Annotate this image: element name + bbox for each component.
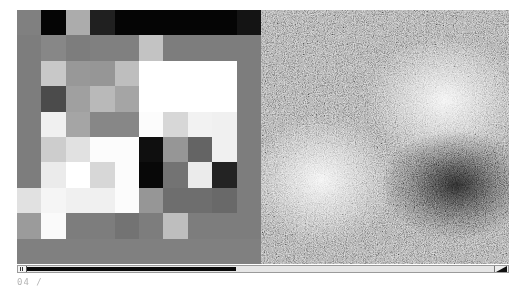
grid-cell (17, 213, 41, 238)
grid-cell (188, 188, 212, 213)
grid-cell (237, 86, 261, 111)
grid-cell (17, 35, 41, 60)
grid-cell (188, 213, 212, 238)
grid-cell (41, 35, 65, 60)
grid-cell (90, 112, 114, 137)
grid-cell (163, 188, 187, 213)
grid-cell (212, 137, 236, 162)
grid-cell (115, 213, 139, 238)
grid-cell (90, 213, 114, 238)
grid-cell (115, 239, 139, 264)
grid-cell (115, 86, 139, 111)
grid-cell (41, 188, 65, 213)
grid-cell (188, 10, 212, 35)
grid-cell (163, 137, 187, 162)
grid-cell (41, 162, 65, 187)
grid-cell (163, 162, 187, 187)
grid-cell (90, 137, 114, 162)
grid-cell (212, 10, 236, 35)
pause-button[interactable] (18, 266, 27, 272)
grid-cell (66, 86, 90, 111)
grid-cell (212, 239, 236, 264)
grid-cell (188, 137, 212, 162)
grid-cell (188, 112, 212, 137)
grid-cell (212, 213, 236, 238)
grid-cell (66, 137, 90, 162)
grid-cell (66, 188, 90, 213)
grid-cell (90, 188, 114, 213)
grid-cell (41, 10, 65, 35)
grid-cell (66, 239, 90, 264)
noise-texture-image (261, 10, 509, 264)
grid-cell (17, 86, 41, 111)
frame-scrollbar[interactable] (17, 265, 509, 273)
grid-cell (188, 239, 212, 264)
grid-cell (17, 137, 41, 162)
grid-cell (17, 162, 41, 187)
grid-cell (17, 10, 41, 35)
grid-cell (237, 239, 261, 264)
grid-cell (17, 188, 41, 213)
resize-corner-icon[interactable] (494, 266, 508, 272)
grid-cell (115, 61, 139, 86)
grid-cell (237, 137, 261, 162)
grid-cell (66, 10, 90, 35)
grid-cell (139, 61, 163, 86)
grid-cell (188, 35, 212, 60)
grid-cell (163, 61, 187, 86)
grid-cell (17, 61, 41, 86)
grid-cell (90, 239, 114, 264)
grid-cell (66, 213, 90, 238)
grid-cell (188, 162, 212, 187)
frame-counter: 04 / (17, 277, 43, 287)
grid-cell (66, 61, 90, 86)
noise-texture-svg (261, 10, 509, 264)
grid-cell (212, 86, 236, 111)
grid-cell (237, 10, 261, 35)
grid-cell (237, 213, 261, 238)
grid-cell (212, 162, 236, 187)
grid-cell (163, 112, 187, 137)
grid-cell (139, 239, 163, 264)
grid-cell (139, 213, 163, 238)
grid-cell (139, 35, 163, 60)
grid-cell (237, 61, 261, 86)
grid-cell (163, 213, 187, 238)
grid-cell (115, 10, 139, 35)
grid-cell (41, 86, 65, 111)
grid-cell (163, 35, 187, 60)
grid-cell (41, 61, 65, 86)
grid-cell (163, 10, 187, 35)
grid-cell (115, 162, 139, 187)
grid-cell (237, 188, 261, 213)
grid-cell (90, 162, 114, 187)
grid-cell (237, 112, 261, 137)
grid-cell (139, 10, 163, 35)
grid-cell (41, 137, 65, 162)
grid-cell (212, 188, 236, 213)
scrollbar-thumb[interactable] (27, 267, 236, 271)
grid-cell (163, 239, 187, 264)
grid-cell (66, 112, 90, 137)
grid-cell (90, 10, 114, 35)
grid-cell (163, 86, 187, 111)
grid-cell (41, 112, 65, 137)
pixel-grid-image (17, 10, 261, 264)
grid-cell (115, 112, 139, 137)
grid-cell (115, 188, 139, 213)
grid-cell (66, 162, 90, 187)
grid-cell (90, 86, 114, 111)
grid-cell (41, 213, 65, 238)
grid-cell (17, 239, 41, 264)
grid-cell (188, 61, 212, 86)
grid-cell (139, 86, 163, 111)
grid-cell (115, 35, 139, 60)
grid-cell (188, 86, 212, 111)
grid-cell (17, 112, 41, 137)
grid-cell (90, 61, 114, 86)
grid-cell (41, 239, 65, 264)
grid-cell (237, 35, 261, 60)
grid-cell (66, 35, 90, 60)
grid-cell (139, 162, 163, 187)
grid-cell (237, 162, 261, 187)
